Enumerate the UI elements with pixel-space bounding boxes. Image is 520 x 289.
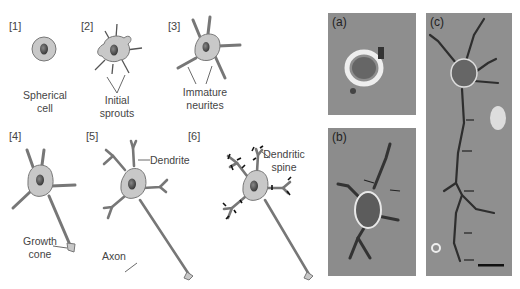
panel-label-c: (c) (430, 15, 444, 29)
caption-line: spine (256, 161, 312, 174)
caption-line: sprouts (91, 107, 143, 120)
stage-3-cell (178, 17, 240, 78)
stage-id-2: [2] (81, 20, 93, 32)
caption-line: neurites (175, 99, 235, 112)
stage-id-5: [5] (86, 130, 98, 142)
caption-line: Spherical (19, 89, 71, 102)
caption-line: cell (19, 102, 71, 115)
label-axon: Axon (102, 250, 126, 263)
caption-line: cone (20, 248, 60, 261)
stage-2-cell (95, 24, 142, 74)
stage-1-cell (32, 37, 56, 61)
stage-id-6: [6] (188, 130, 200, 142)
micrograph-c (426, 13, 512, 276)
stage-id-3: [3] (168, 20, 180, 32)
caption-line: Growth (20, 235, 60, 248)
stage-id-1: [1] (9, 20, 21, 32)
micrograph-b (328, 128, 416, 276)
label-dendrite: Dendrite (150, 154, 190, 167)
panel-label-b: (b) (332, 130, 347, 144)
scale-bar (478, 264, 504, 267)
caption-line: Dendritic (256, 148, 312, 161)
caption-line: Immature (175, 86, 235, 99)
caption-dendritic-spine: Dendritic spine (256, 148, 312, 174)
panel-label-a: (a) (332, 15, 347, 29)
stage-id-4: [4] (9, 130, 21, 142)
caption-immature-neurites: Immature neurites (175, 86, 235, 112)
photo-panel-b: (b) (328, 128, 416, 276)
caption-growth-cone: Growth cone (20, 235, 60, 261)
photo-panel-a: (a) (328, 13, 416, 115)
caption-line: Initial (91, 94, 143, 107)
caption-initial-sprouts: Initial sprouts (91, 94, 143, 120)
caption-spherical-cell: Spherical cell (19, 89, 71, 115)
photo-panel-c: (c) (426, 13, 512, 276)
